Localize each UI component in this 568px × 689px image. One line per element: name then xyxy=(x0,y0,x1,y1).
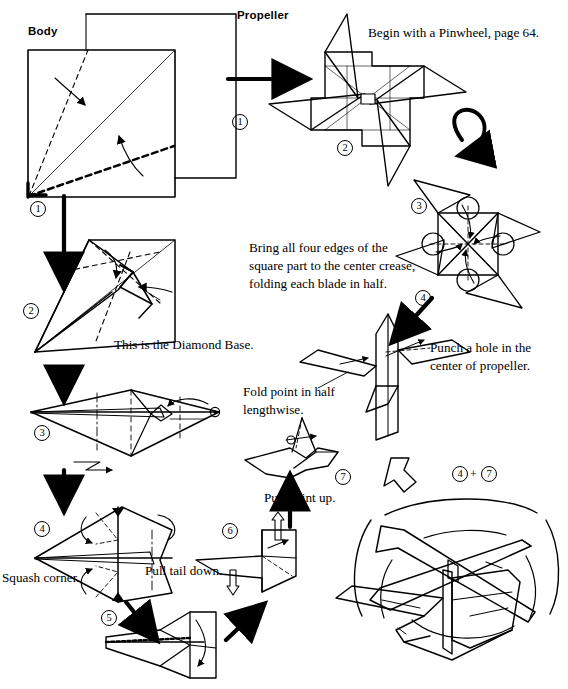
caption-begin-pinwheel: Begin with a Pinwheel, page 64. xyxy=(368,26,539,41)
step-number-body-1: 1 xyxy=(30,201,46,217)
caption-pull-tail-down: Pull tail down. xyxy=(145,564,222,579)
caption-diamond-base: This is the Diamond Base. xyxy=(114,338,254,353)
combine-plus-sign: + xyxy=(470,467,477,482)
label-body: Body xyxy=(28,25,58,38)
propeller-step4 xyxy=(300,314,470,440)
final-model xyxy=(336,499,559,660)
arrow-step5-to-6 xyxy=(226,606,262,640)
step-number-propeller-2: 2 xyxy=(337,140,353,156)
step-number-body-4: 4 xyxy=(34,521,50,537)
caption-pull-point-up: Pull point up. xyxy=(264,491,335,506)
step-number-propeller-4: 4 xyxy=(415,290,431,306)
turn-over-arrow xyxy=(454,110,484,155)
assembly-arrow xyxy=(384,458,416,492)
step-number-body-3: 3 xyxy=(34,425,50,441)
step-number-body-1b: 1 xyxy=(232,114,248,130)
step-number-body-7: 7 xyxy=(335,469,351,485)
caption-squash-corner: Squash corner. xyxy=(2,571,80,586)
label-propeller: Propeller xyxy=(237,9,289,22)
propeller-square-outline xyxy=(86,14,236,178)
step4-squash-corner xyxy=(35,507,175,602)
step5-pull-tail xyxy=(106,612,216,678)
step-number-final-a: 4 xyxy=(452,466,468,482)
diagram-sheet: Body Propeller Begin with a Pinwheel, pa… xyxy=(0,0,568,689)
step-number-propeller-3: 3 xyxy=(411,198,427,214)
step2-body-fold xyxy=(35,240,175,352)
step-number-final-b: 7 xyxy=(481,466,497,482)
caption-bring-edges-line3: folding each blade in half. xyxy=(249,277,387,292)
step6-model xyxy=(196,512,296,595)
step-number-body-5: 5 xyxy=(101,610,117,626)
caption-fold-point-line1: Fold point in half xyxy=(243,385,335,400)
caption-fold-point-line2: lengthwise. xyxy=(243,403,303,418)
caption-punch-hole-line2: center of propeller. xyxy=(430,359,530,374)
step-number-body-2: 2 xyxy=(23,303,39,319)
step-number-body-6: 6 xyxy=(222,523,238,539)
caption-punch-hole-line1: Punch a hole in the xyxy=(430,341,531,356)
step3-diamond-base xyxy=(31,390,220,470)
caption-bring-edges-line2: square part to the center crease, xyxy=(249,259,415,274)
step1-body-square xyxy=(28,50,175,197)
caption-bring-edges-line1: Bring all four edges of the xyxy=(249,241,437,256)
